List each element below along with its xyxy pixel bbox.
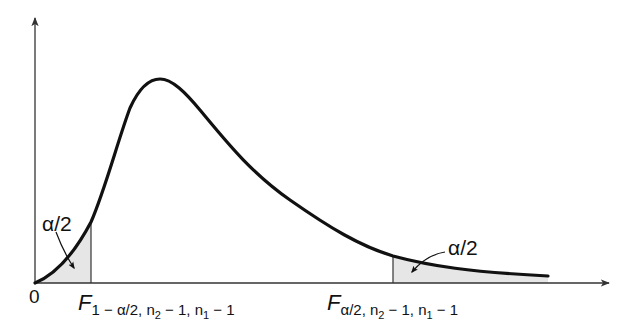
- f-distribution-chart: α/2 α/2 0 F1 − α/2, n2 − 1, n1 − 1 Fα/2,…: [0, 0, 626, 335]
- right-crit-sub-e: − 1: [433, 301, 458, 318]
- left-crit-sub-c: − 1, n: [161, 301, 203, 318]
- left-crit-sub-a: 1 − α/2, n: [91, 301, 154, 318]
- right-crit-sub-a: α/2, n: [340, 301, 378, 318]
- left-area-label: α/2: [42, 212, 72, 235]
- right-critical-value-label: Fα/2, n2 − 1, n1 − 1: [327, 290, 458, 321]
- origin-label: 0: [29, 286, 40, 307]
- left-critical-value-label: F1 − α/2, n2 − 1, n1 − 1: [78, 290, 235, 321]
- left-crit-sub-e: − 1: [209, 301, 234, 318]
- right-crit-sub-c: − 1, n: [384, 301, 426, 318]
- right-area-label: α/2: [448, 236, 478, 259]
